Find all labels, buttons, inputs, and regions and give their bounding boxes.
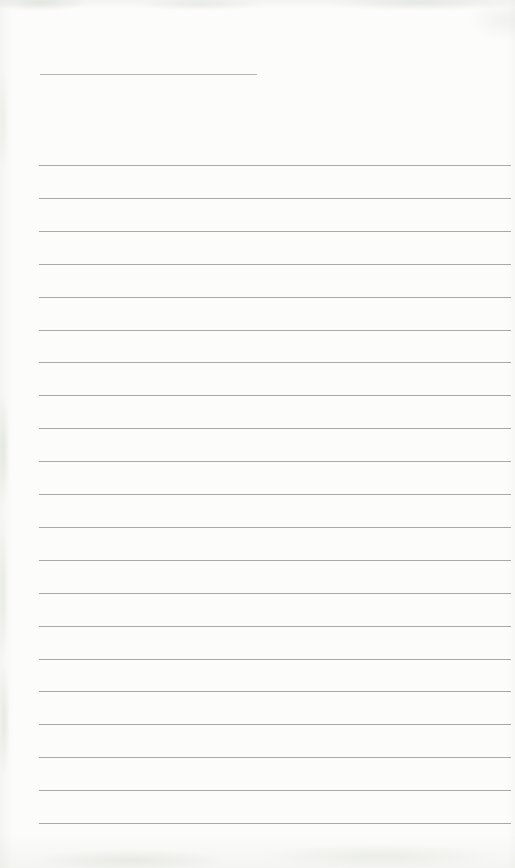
ruled-line bbox=[39, 593, 511, 594]
ruled-line bbox=[39, 691, 511, 692]
ruled-line bbox=[39, 231, 511, 232]
ruled-line bbox=[39, 790, 511, 791]
ruled-line bbox=[39, 560, 511, 561]
ruled-line bbox=[39, 659, 511, 660]
ruled-line bbox=[39, 494, 511, 495]
ruled-line bbox=[39, 362, 511, 363]
ruled-line bbox=[39, 165, 511, 166]
ruled-line bbox=[39, 823, 511, 824]
ruled-line bbox=[39, 264, 511, 265]
ruled-line bbox=[39, 395, 511, 396]
ruled-line bbox=[39, 724, 511, 725]
ruled-line bbox=[39, 757, 511, 758]
ruled-line bbox=[39, 527, 511, 528]
ruled-line bbox=[39, 198, 511, 199]
ruled-line bbox=[39, 626, 511, 627]
ruled-line bbox=[39, 461, 511, 462]
ruled-line bbox=[39, 428, 511, 429]
title-rule bbox=[40, 74, 257, 75]
notebook-page bbox=[0, 0, 515, 868]
ruled-line bbox=[39, 330, 511, 331]
ruled-line bbox=[39, 297, 511, 298]
